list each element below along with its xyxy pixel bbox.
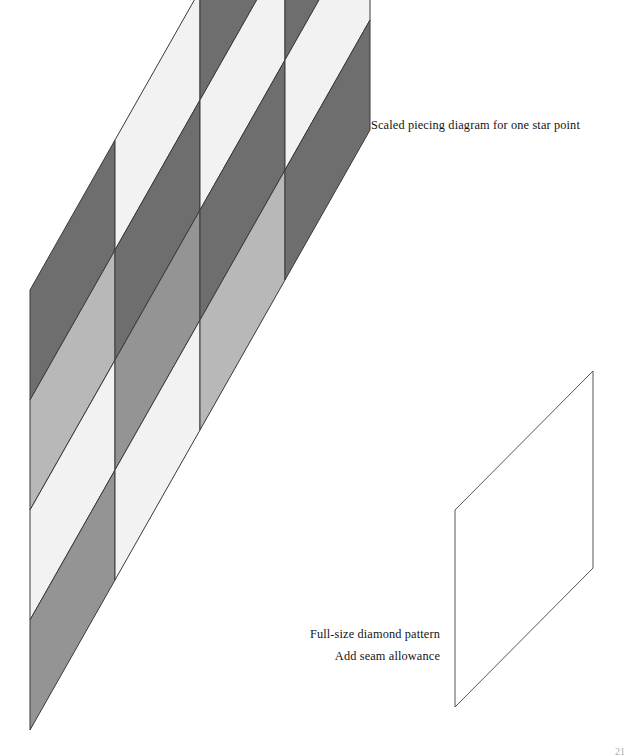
page-folio: 21 (615, 746, 625, 755)
caption-line-seam-allowance: Add seam allowance (175, 650, 440, 663)
full-size-diamond-outline (455, 371, 593, 707)
scaled-piecing-diagram (30, 0, 370, 730)
caption-scaled-diagram: Scaled piecing diagram for one star poin… (371, 119, 580, 132)
caption-full-size-diamond: Full-size diamond pattern Add seam allow… (175, 628, 440, 663)
page-canvas: Scaled piecing diagram for one star poin… (0, 0, 627, 755)
caption-line-pattern: Full-size diamond pattern (175, 628, 440, 641)
full-size-diamond-pattern (455, 371, 593, 707)
